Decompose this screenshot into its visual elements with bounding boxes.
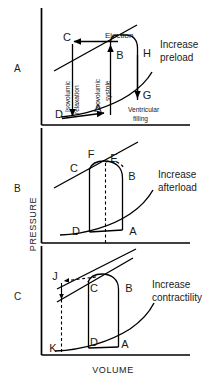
panel-a-isovolumic-relaxation-label-1: Isovolumic xyxy=(64,80,71,112)
panel-a-isovolumic-systole-label-1: Isovolumic xyxy=(94,78,101,110)
y-axis-label: PRESSURE xyxy=(28,197,38,251)
panel-b-caption-line2: afterload xyxy=(158,182,197,193)
panel-a-ejection-label: Ejection xyxy=(105,31,133,40)
panel-b: B F E C B D A Increase afterload xyxy=(14,128,197,243)
panel-a: A C B H G A D Ejection Isovolumic relaxa… xyxy=(14,8,199,125)
panel-a-letter: A xyxy=(14,63,21,74)
panel-c: C J C B D A K Increase contractility xyxy=(14,246,202,355)
panel-c-point-a: A xyxy=(121,338,129,350)
panel-b-point-c: C xyxy=(70,162,78,174)
panel-c-point-j: J xyxy=(52,270,58,282)
panel-b-espvr-curve xyxy=(54,142,138,188)
panel-a-point-c: C xyxy=(63,31,71,43)
panel-a-point-d: D xyxy=(55,108,63,120)
x-axis-label: VOLUME xyxy=(92,365,134,375)
panel-c-caption-line2: contractility xyxy=(152,292,202,303)
panel-c-point-c: C xyxy=(90,282,98,294)
panel-b-point-a: A xyxy=(129,225,137,237)
panel-c-point-d: D xyxy=(90,336,98,348)
panel-a-isovolumic-relaxation-label-2: relaxation xyxy=(73,85,80,114)
panel-b-letter: B xyxy=(14,183,21,194)
panel-a-ventricular-filling-label-1: Ventricular xyxy=(128,106,160,113)
panel-a-caption-line1: Increase xyxy=(160,39,199,50)
panel-a-point-g: G xyxy=(143,89,152,101)
panel-c-point-k: K xyxy=(49,342,57,354)
panel-a-point-b: B xyxy=(116,49,123,61)
pressure-volume-loop-figure: PRESSURE VOLUME A C B H G A D xyxy=(0,0,219,386)
panel-b-point-f: F xyxy=(88,148,95,160)
panel-c-caption-line1: Increase xyxy=(152,279,191,290)
panel-c-point-b: B xyxy=(125,282,132,294)
panel-a-caption-line2: preload xyxy=(160,52,193,63)
y-axis-label-group: PRESSURE xyxy=(28,197,38,251)
figure-svg: PRESSURE VOLUME A C B H G A D xyxy=(0,0,219,386)
x-axis-label-group: VOLUME xyxy=(92,365,134,375)
panel-a-point-h: H xyxy=(143,47,151,59)
panel-a-ventricular-filling-label-2: filling xyxy=(133,115,148,123)
panel-c-edpvr-curve xyxy=(55,303,154,351)
panel-b-point-d: D xyxy=(72,225,80,237)
panel-b-point-b: B xyxy=(128,170,135,182)
panel-b-point-e: E xyxy=(110,152,117,164)
panel-b-caption-line1: Increase xyxy=(158,169,197,180)
panel-a-isovolumic-systole-label-2: systole xyxy=(104,80,112,101)
panel-c-letter: C xyxy=(14,291,21,302)
